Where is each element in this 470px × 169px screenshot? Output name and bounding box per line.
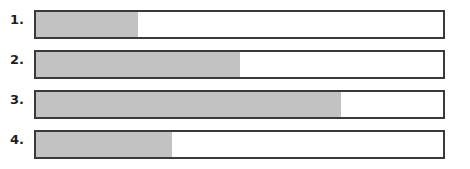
progress-bar	[34, 130, 445, 159]
bar-label: 3.	[10, 92, 24, 107]
progress-fill	[36, 12, 138, 37]
progress-bar	[34, 10, 445, 39]
progress-fill	[36, 52, 240, 77]
progress-bar	[34, 90, 445, 119]
bar-label: 2.	[10, 52, 24, 67]
bar-label: 4.	[10, 132, 24, 147]
bar-label: 1.	[10, 12, 24, 27]
progress-fill	[36, 92, 341, 117]
bar-row-1: 1.	[0, 10, 470, 39]
bar-row-3: 3.	[0, 90, 470, 119]
progress-fill	[36, 132, 172, 157]
bar-row-4: 4.	[0, 130, 470, 159]
progress-bar	[34, 50, 445, 79]
bar-row-2: 2.	[0, 50, 470, 79]
